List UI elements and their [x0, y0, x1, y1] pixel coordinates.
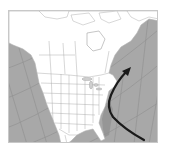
map-frame [8, 10, 158, 143]
north-america-map [9, 11, 158, 143]
